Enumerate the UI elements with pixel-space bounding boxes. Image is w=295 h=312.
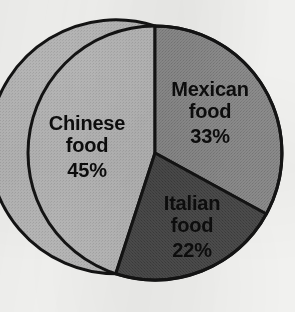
pie-chart-svg xyxy=(0,0,295,312)
pie-chart-figure: Mexican food 33% Chinese food 45% Italia… xyxy=(0,0,295,312)
